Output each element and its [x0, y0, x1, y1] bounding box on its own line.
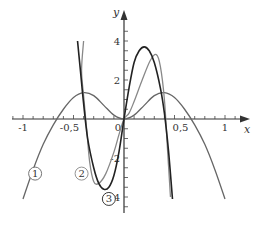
y-tick-label: 2	[114, 75, 120, 86]
x-tick-label: 0,5	[173, 122, 189, 133]
x-axis-label: x	[244, 123, 251, 136]
x-tick-label: -1	[18, 122, 28, 133]
curve-labels: 123	[29, 167, 116, 205]
curve-label-2: 2	[78, 168, 84, 179]
y-axis-arrow-icon	[121, 10, 128, 20]
function-graph: -1-0,500,5142-2-4xy 123	[0, 0, 259, 234]
y-axis-label: y	[112, 6, 120, 19]
curve-label-3: 3	[106, 193, 112, 204]
x-axis-arrow-icon	[240, 116, 250, 123]
curve-label-1: 1	[32, 168, 38, 179]
x-tick-label: 1	[222, 122, 228, 133]
y-tick-label: 4	[114, 36, 120, 47]
x-tick-label: -0,5	[60, 122, 79, 133]
